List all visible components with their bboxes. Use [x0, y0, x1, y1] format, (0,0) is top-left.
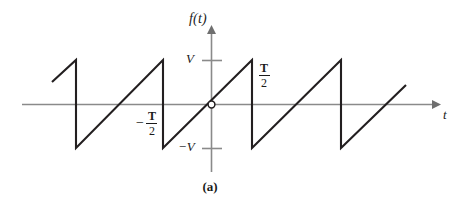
y-axis-label: f(t) — [189, 12, 207, 26]
x-axis-label: t — [443, 108, 447, 121]
figure-sawtooth-waveform: f(t) t V −V − T 2 T 2 (a) — [0, 0, 458, 207]
x-tick-label-negative-half-period: − T 2 — [136, 110, 158, 137]
x-axis — [22, 100, 441, 109]
fraction-numerator: T — [146, 110, 158, 123]
y-axis — [207, 25, 216, 172]
plot-canvas — [0, 0, 458, 207]
fraction-numerator: T — [258, 62, 270, 75]
minus-sign: − — [136, 115, 144, 131]
y-axis-arrowhead — [207, 25, 216, 34]
fraction: T 2 — [146, 110, 158, 137]
figure-caption: (a) — [0, 180, 420, 193]
fraction-denominator: 2 — [259, 76, 269, 89]
x-tick-label-positive-half-period: T 2 — [258, 62, 270, 89]
fraction: T 2 — [258, 62, 270, 89]
origin-marker-icon — [208, 101, 215, 108]
fraction-denominator: 2 — [147, 124, 157, 137]
y-tick-label-positive-v: V — [186, 52, 194, 65]
x-axis-arrowhead — [432, 100, 441, 109]
y-tick-label-negative-v: −V — [178, 140, 195, 153]
